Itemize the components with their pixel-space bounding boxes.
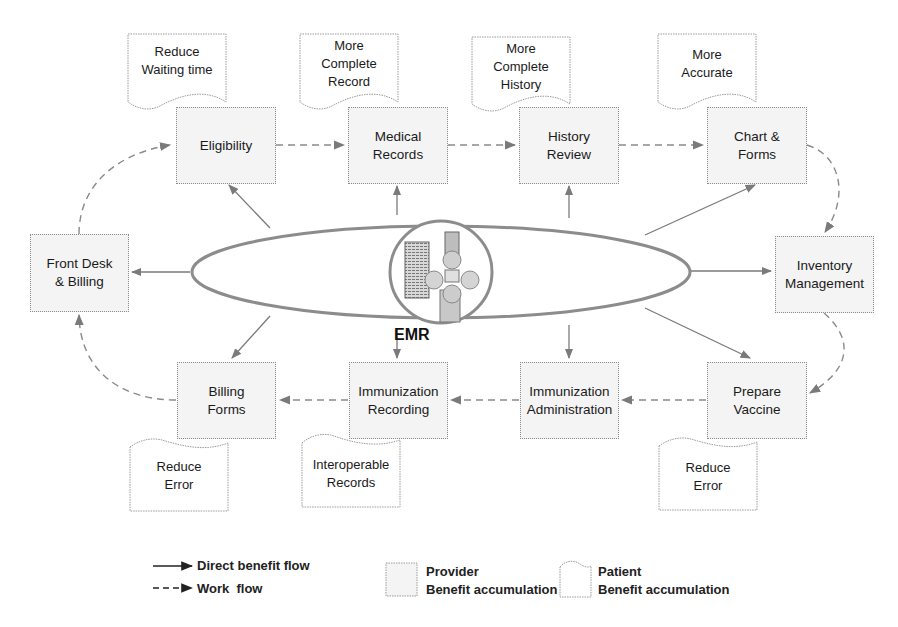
box-immunization-recording: Immunization Recording	[349, 362, 448, 439]
box-label: Billing Forms	[207, 383, 245, 419]
note-label: More Complete Record	[321, 37, 377, 91]
box-label: Immunization Administration	[527, 383, 613, 419]
box-inventory-management: Inventory Management	[775, 236, 874, 313]
box-front-desk-billing: Front Desk & Billing	[30, 234, 129, 312]
box-label: Medical Records	[373, 128, 423, 164]
legend-provider-sub: Benefit accumulation	[426, 581, 557, 599]
box-label: Inventory Management	[785, 257, 864, 293]
note-label: Interoperable Records	[313, 456, 390, 492]
note-eligibility: Reduce Waiting time	[128, 37, 226, 97]
box-label: Immunization Recording	[358, 383, 438, 419]
box-chart-forms: Chart & Forms	[707, 107, 807, 184]
box-label: Chart & Forms	[734, 128, 780, 164]
box-history-review: History Review	[519, 107, 619, 184]
box-label: Eligibility	[200, 137, 253, 155]
box-label: Front Desk & Billing	[46, 255, 112, 291]
note-chart-forms: More Accurate	[658, 40, 756, 100]
note-prepare-vaccine: Reduce Error	[659, 449, 757, 503]
note-label: Reduce Error	[686, 459, 731, 495]
box-billing-forms: Billing Forms	[177, 362, 276, 439]
legend-work-flow: Work flow	[197, 580, 262, 598]
note-label: Reduce Waiting time	[141, 43, 212, 79]
legend-patient-sub: Benefit accumulation	[598, 581, 729, 599]
box-medical-records: Medical Records	[348, 107, 448, 184]
note-label: Reduce Error	[157, 458, 202, 494]
note-label: More Accurate	[681, 46, 732, 82]
emr-label: EMR	[394, 326, 430, 344]
note-label: More Complete History	[493, 40, 549, 94]
legend-patient-title: Patient	[598, 563, 641, 581]
legend-direct-benefit-flow: Direct benefit flow	[197, 557, 310, 575]
box-prepare-vaccine: Prepare Vaccine	[707, 362, 807, 439]
note-immunization-recording: Interoperable Records	[302, 446, 400, 500]
box-label: Prepare Vaccine	[733, 383, 781, 419]
box-label: History Review	[547, 128, 591, 164]
note-billing-forms: Reduce Error	[130, 450, 228, 502]
note-history-review: More Complete History	[472, 34, 570, 100]
box-eligibility: Eligibility	[176, 107, 276, 184]
note-medical-records: More Complete Record	[300, 31, 398, 97]
legend-provider-title: Provider	[426, 563, 479, 581]
box-immunization-administration: Immunization Administration	[520, 362, 619, 439]
